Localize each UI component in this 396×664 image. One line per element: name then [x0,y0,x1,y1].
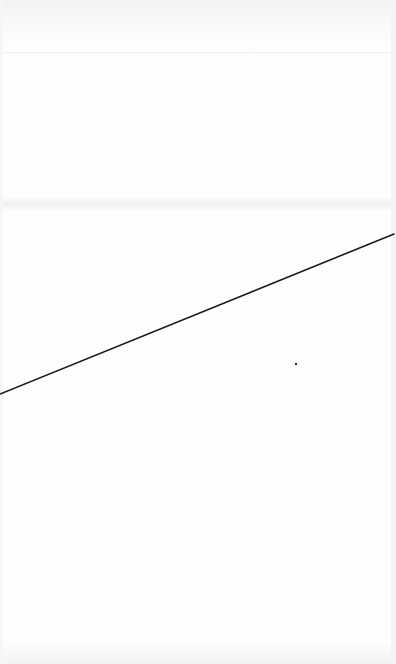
stray-dot [295,363,297,365]
blank-page [0,0,396,664]
diagonal-line [0,234,394,394]
drawing-canvas [0,0,396,664]
